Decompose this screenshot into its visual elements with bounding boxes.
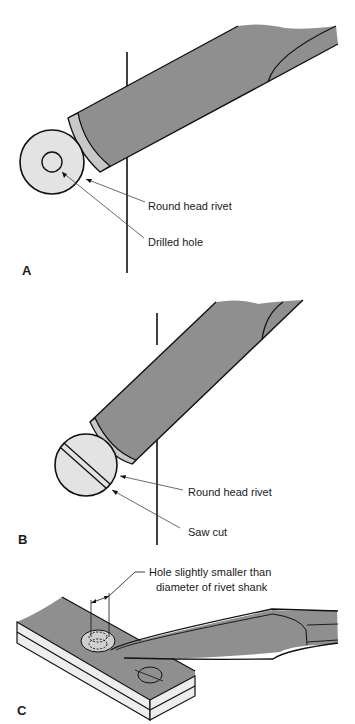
label-round-head-rivet-b: Round head rivet (188, 486, 272, 498)
rivet-hole (138, 667, 162, 683)
panel-b: Round head rivet Saw cut B (18, 300, 303, 547)
drilled-hole (42, 152, 62, 172)
punch-body (90, 300, 303, 464)
panel-letter-a: A (22, 263, 32, 278)
label-hole-line-2: diameter of rivet shank (156, 581, 268, 593)
panel-letter-b: B (18, 532, 27, 547)
punch-body (68, 24, 338, 172)
label-round-head-rivet-a: Round head rivet (148, 200, 232, 212)
rivet-removal-diagram: Round head rivet Drilled hole A Round he… (0, 0, 355, 724)
label-hole-line-1: Hole slightly smaller than (149, 566, 271, 578)
label-drilled-hole: Drilled hole (148, 236, 203, 248)
panel-letter-c: C (17, 703, 27, 718)
panel-a: Round head rivet Drilled hole A (20, 24, 338, 278)
label-saw-cut: Saw cut (188, 526, 227, 538)
chisel-body (111, 610, 338, 658)
panel-c: Hole slightly smaller than diameter of r… (17, 566, 338, 720)
